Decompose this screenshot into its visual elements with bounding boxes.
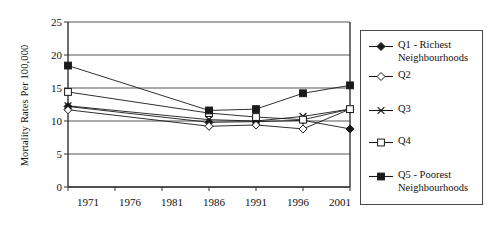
legend-item-q1[interactable]: Q1 - Richest Neighbourhoods	[367, 39, 468, 64]
filled-square-marker	[65, 62, 72, 69]
legend-item-q2[interactable]: Q2	[367, 69, 411, 83]
open-square-marker	[378, 139, 385, 146]
filled-diamond-icon	[367, 40, 395, 53]
filled-square-icon	[367, 170, 395, 183]
filled-square-marker	[378, 173, 385, 180]
x-tick-label: 1996	[287, 196, 309, 208]
open-square-marker	[300, 116, 307, 123]
open-diamond-icon	[367, 70, 395, 83]
filled-diamond-marker	[346, 125, 354, 133]
chart-figure: Mortality Rates Per 100,000 25 20 15 10 …	[0, 0, 496, 236]
legend-item-label: Q3	[398, 103, 411, 116]
open-diamond-marker	[377, 73, 385, 81]
x-tick-label: 1986	[203, 196, 225, 208]
filled-square-marker	[347, 82, 354, 89]
legend-item-label: Q2	[398, 69, 411, 82]
filled-diamond-marker	[377, 43, 385, 51]
x-tick-label: 2001	[329, 196, 351, 208]
filled-square-marker	[206, 107, 213, 114]
x-tick-label: 1976	[119, 196, 141, 208]
x-tick-label: 1981	[161, 196, 183, 208]
legend-item-label: Q1 - Richest Neighbourhoods	[398, 39, 468, 64]
open-square-icon	[367, 136, 395, 149]
open-square-marker	[65, 89, 72, 96]
legend-item-q5[interactable]: Q5 - Poorest Neighbourhoods	[367, 169, 468, 194]
open-square-marker	[253, 114, 260, 121]
open-square-marker	[347, 106, 354, 113]
open-diamond-marker	[299, 125, 307, 133]
legend-item-label: Q5 - Poorest Neighbourhoods	[398, 169, 468, 194]
filled-square-marker	[300, 90, 307, 97]
legend-item-label: Q4	[398, 135, 411, 148]
filled-square-marker	[253, 106, 260, 113]
chart-legend: Q1 - Richest Neighbourhoods Q2 Q3 Q4 Q5 …	[360, 30, 483, 205]
x-tick-label: 1971	[77, 196, 99, 208]
x-cross-icon	[367, 104, 395, 117]
legend-item-q4[interactable]: Q4	[367, 135, 411, 149]
x-tick-label: 1991	[245, 196, 267, 208]
legend-item-q3[interactable]: Q3	[367, 103, 411, 117]
